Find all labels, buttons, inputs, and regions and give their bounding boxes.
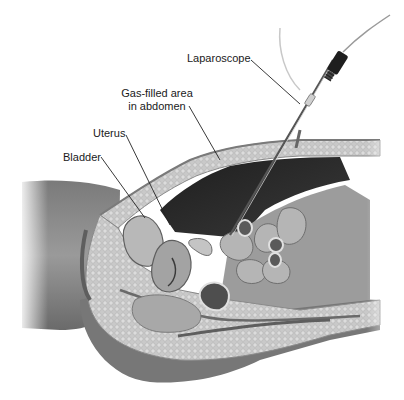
fade-mask bbox=[280, 140, 404, 370]
leader-line-gas bbox=[189, 106, 220, 160]
label-gas-line-2: in abdomen bbox=[120, 100, 194, 113]
label-uterus: Uterus bbox=[93, 127, 125, 140]
label-gas-line-1: Gas-filled area bbox=[120, 87, 194, 100]
label-gas-filled-area: Gas-filled area in abdomen bbox=[120, 87, 194, 113]
label-bladder: Bladder bbox=[63, 151, 101, 164]
ovary-shape bbox=[189, 238, 212, 255]
label-laparoscope: Laparoscope bbox=[187, 52, 251, 65]
bowel-section bbox=[200, 283, 229, 311]
uterus-shape bbox=[152, 241, 191, 292]
